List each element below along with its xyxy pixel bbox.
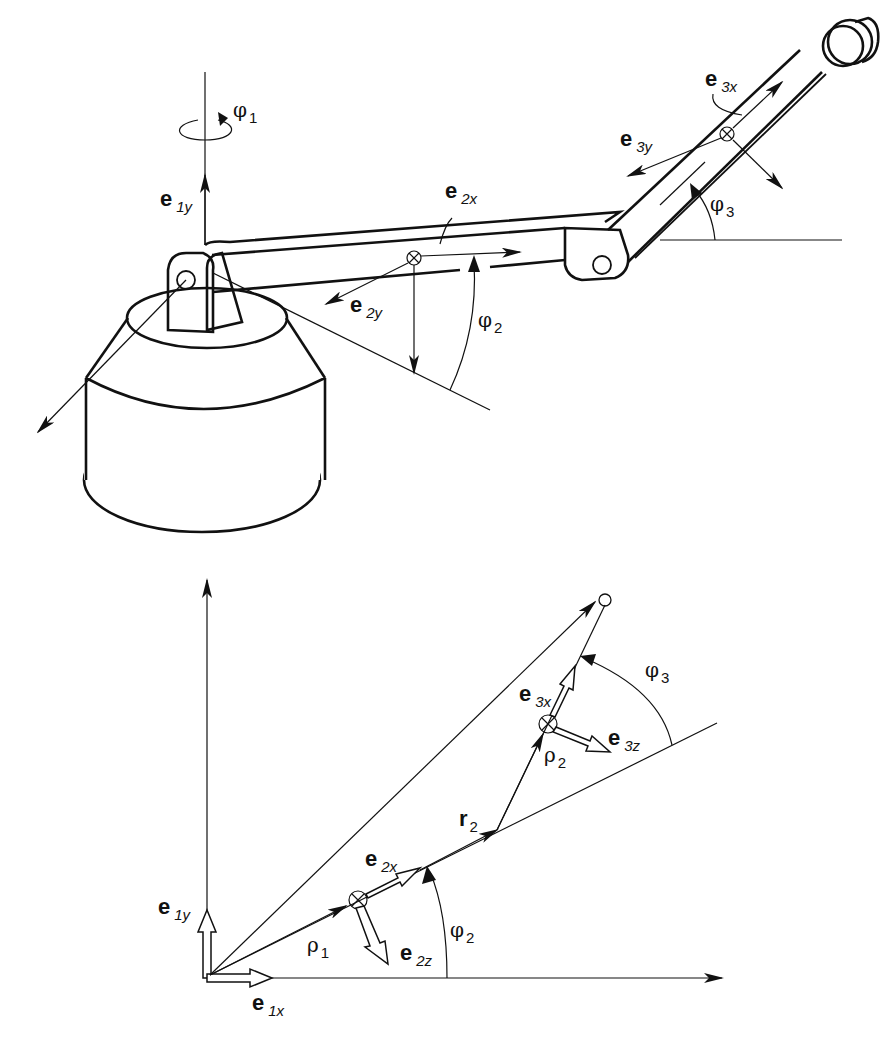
- diagram-canvas: [0, 0, 880, 1044]
- label-e1y: e1y: [160, 188, 192, 210]
- phi2-arc: [450, 262, 475, 390]
- e1y-unit-vector: [198, 910, 216, 978]
- e2x-leader: [440, 218, 452, 244]
- label-symbol: r: [459, 806, 468, 831]
- label-subscript: 3z: [624, 737, 640, 754]
- label-subscript: 3x: [721, 78, 737, 95]
- phi1-arrowhead-icon: [218, 112, 228, 126]
- label-subscript: 1x: [268, 1002, 284, 1019]
- label-subscript: 1: [321, 944, 329, 961]
- label-phi3-bottom: φ3: [645, 660, 669, 680]
- label-subscript: 1: [249, 109, 257, 126]
- label-subscript: 2: [558, 754, 566, 771]
- label-e3y: e3y: [620, 128, 652, 150]
- label-subscript: 2y: [366, 304, 382, 321]
- rho2-vector: [497, 734, 543, 830]
- label-symbol: e: [620, 126, 632, 151]
- e2z-unit-vector: [356, 906, 388, 964]
- e3x-leader: [713, 94, 742, 115]
- label-rho2: ρ2: [544, 745, 566, 765]
- r2-vector: [420, 830, 497, 870]
- label-symbol: e: [445, 178, 457, 203]
- end-effector-point-icon: [599, 594, 611, 606]
- label-symbol: e: [350, 292, 362, 317]
- label-e2x: e2x: [445, 180, 477, 202]
- label-e3x-bottom: e3x: [519, 683, 551, 705]
- label-symbol: φ: [450, 918, 464, 942]
- end-effector-position-vector: [210, 602, 595, 975]
- label-subscript: 3x: [535, 693, 551, 710]
- label-subscript: 2x: [461, 190, 477, 207]
- label-e3z-bottom: e3z: [608, 727, 640, 749]
- e3x-unit-vector: [550, 666, 575, 717]
- label-symbol: e: [705, 66, 717, 91]
- label-symbol: e: [519, 681, 531, 706]
- label-e2x-bottom: e2x: [365, 848, 397, 870]
- label-phi2: φ2: [478, 310, 502, 330]
- label-subscript: 3: [661, 669, 669, 686]
- label-symbol: e: [400, 940, 412, 965]
- label-symbol: ρ: [544, 743, 556, 767]
- elbow-pin-icon: [593, 256, 611, 274]
- label-symbol: e: [158, 894, 170, 919]
- label-subscript: 2: [466, 929, 474, 946]
- label-symbol: e: [365, 846, 377, 871]
- e3z-arrow: [733, 140, 782, 188]
- label-e1y-bottom: e1y: [158, 896, 190, 918]
- label-subscript: 3y: [636, 138, 652, 155]
- label-phi2-bottom: φ2: [450, 920, 474, 940]
- label-symbol: φ: [478, 308, 492, 332]
- label-subscript: 1y: [174, 906, 190, 923]
- label-subscript: 2z: [416, 952, 432, 969]
- label-symbol: ρ: [307, 933, 319, 957]
- label-e2y: e2y: [350, 294, 382, 316]
- label-symbol: φ: [645, 658, 659, 682]
- label-phi3: φ3: [710, 194, 734, 214]
- label-symbol: e: [160, 186, 172, 211]
- label-symbol: e: [252, 990, 264, 1015]
- label-e1x-bottom: e1x: [252, 992, 284, 1014]
- top-perspective-view: [38, 18, 878, 532]
- label-symbol: e: [608, 725, 620, 750]
- label-phi1: φ1: [233, 100, 257, 120]
- label-e2z-bottom: e2z: [400, 942, 432, 964]
- label-subscript: 1y: [176, 198, 192, 215]
- phi2-arc: [430, 872, 447, 978]
- label-subscript: 2: [470, 818, 478, 835]
- e2x-arrow: [421, 252, 520, 256]
- label-r2: r2: [459, 808, 478, 830]
- label-symbol: φ: [233, 98, 247, 122]
- label-subscript: 2: [494, 319, 502, 336]
- label-subscript: 2x: [381, 858, 397, 875]
- label-subscript: 3: [726, 203, 734, 220]
- label-e3x: e3x: [705, 68, 737, 90]
- robot-base: [84, 288, 325, 532]
- label-rho1: ρ1: [307, 935, 329, 955]
- label-symbol: φ: [710, 192, 724, 216]
